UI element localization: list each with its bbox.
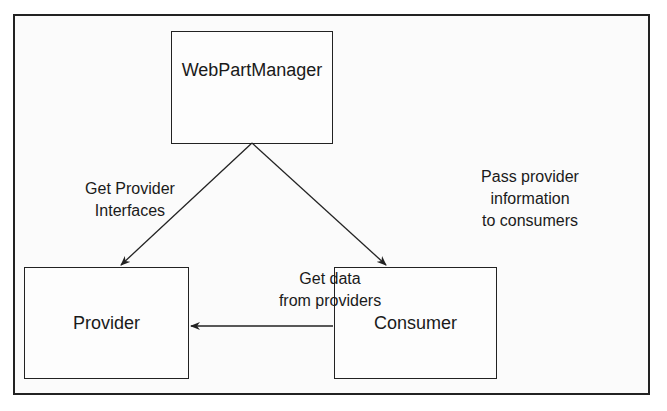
provider-node: Provider (24, 267, 189, 379)
provider-label: Provider (73, 313, 140, 334)
webpartmanager-label: WebPartManager (182, 60, 323, 81)
consumer-label: Consumer (374, 313, 457, 334)
webpartmanager-node: WebPartManager (171, 31, 333, 144)
get-interfaces-label: Get Provider Interfaces (60, 178, 200, 222)
pass-info-label: Pass provider information to consumers (455, 166, 605, 232)
get-data-label: Get data from providers (250, 268, 410, 312)
